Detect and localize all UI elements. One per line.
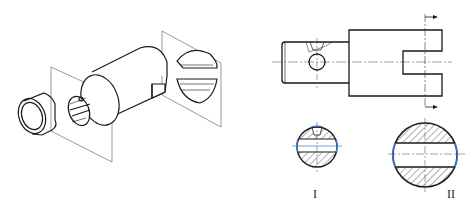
section-label-ii: II (447, 187, 455, 201)
front-view (272, 14, 452, 109)
big-body (349, 30, 442, 96)
section-i: I (292, 122, 342, 201)
isometric-view (14, 31, 221, 162)
end-cap (14, 93, 56, 137)
drawing-canvas: I II (0, 0, 475, 209)
section-label-i: I (313, 187, 317, 201)
section-ii: II (388, 118, 465, 201)
small-shaft (282, 42, 349, 83)
section-pieces-2 (177, 50, 217, 103)
